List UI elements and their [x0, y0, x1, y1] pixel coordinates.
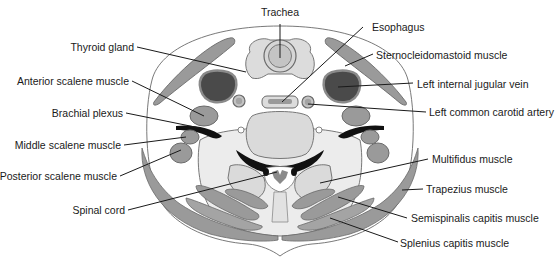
vertebral-body: [246, 112, 314, 159]
nerve-root-dark-left: [291, 168, 297, 176]
posterior-scalene-muscle-left: [367, 143, 389, 163]
neck-cross-section-diagram: Trachea Esophagus Thyroid gland Sternocl…: [0, 0, 560, 259]
label-trachea: Trachea: [261, 6, 299, 18]
label-multifidus: Multifidus muscle: [432, 153, 513, 165]
internal-jugular-vein-right: [200, 71, 236, 103]
label-semispinalis-capitis: Semispinalis capitis muscle: [411, 212, 539, 224]
label-posterior-scalene: Posterior scalene muscle: [0, 170, 117, 182]
transverse-foramen-right: [238, 127, 244, 133]
middle-scalene-muscle-left: [361, 130, 379, 144]
spinous-process: [272, 192, 288, 222]
common-carotid-artery-right-lumen: [236, 98, 242, 104]
esophagus-lumen: [268, 99, 292, 104]
transverse-foramen-left: [316, 127, 322, 133]
label-middle-scalene: Middle scalene muscle: [15, 139, 121, 151]
label-thyroid-gland: Thyroid gland: [70, 41, 134, 53]
label-left-internal-jugular: Left internal jugular vein: [417, 78, 529, 90]
label-left-common-carotid: Left common carotid artery: [429, 106, 555, 118]
label-spinal-cord: Spinal cord: [72, 204, 125, 216]
label-esophagus: Esophagus: [372, 21, 425, 33]
label-trapezius: Trapezius muscle: [426, 183, 508, 195]
label-anterior-scalene: Anterior scalene muscle: [17, 75, 129, 87]
label-splenius-capitis: Splenius capitis muscle: [400, 237, 509, 249]
anterior-scalene-muscle-left: [342, 106, 370, 126]
label-brachial-plexus: Brachial plexus: [52, 107, 123, 119]
label-sternocleidomastoid: Sternocleidomastoid muscle: [376, 49, 507, 61]
